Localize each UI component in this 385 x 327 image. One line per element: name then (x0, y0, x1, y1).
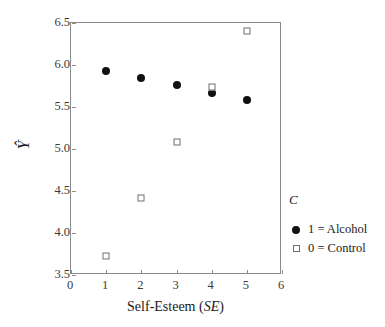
x-tick (141, 270, 142, 274)
data-point (243, 96, 251, 104)
y-tick (72, 23, 76, 24)
x-tick-label: 5 (243, 278, 249, 293)
x-axis-label-tail: ) (219, 299, 224, 314)
legend-title: C (288, 192, 383, 208)
data-point (137, 74, 145, 82)
legend-item-control[interactable]: 0 = Control (288, 239, 383, 258)
x-axis-label-text: Self-Esteem ( (127, 299, 204, 314)
x-axis-label-variable: SE (204, 299, 220, 314)
x-tick (247, 270, 248, 274)
data-point (103, 252, 110, 259)
legend-item-label: 1 = Alcohol (304, 222, 367, 237)
x-tick-label: 4 (208, 278, 214, 293)
x-tick (282, 270, 283, 274)
plot-area (70, 22, 281, 274)
data-point (243, 28, 250, 35)
open-square-icon (288, 245, 304, 252)
legend-item-label: 0 = Control (304, 241, 366, 256)
data-point (173, 81, 181, 89)
x-tick (106, 270, 107, 274)
x-tick (177, 270, 178, 274)
y-tick (72, 149, 76, 150)
x-tick-label: 1 (102, 278, 108, 293)
y-tick-label: 5.5 (54, 99, 70, 114)
y-tick-label: 4.5 (54, 183, 70, 198)
x-tick (71, 270, 72, 274)
legend: C 1 = Alcohol 0 = Control (288, 192, 383, 258)
y-tick-label: 4.0 (54, 225, 70, 240)
y-axis-label: Ŷ (15, 115, 33, 175)
y-tick (72, 107, 76, 108)
legend-item-alcohol[interactable]: 1 = Alcohol (288, 220, 383, 239)
data-point (102, 67, 110, 75)
y-tick (72, 233, 76, 234)
x-tick-label: 6 (278, 278, 284, 293)
data-point (208, 83, 215, 90)
x-tick (212, 270, 213, 274)
y-tick (72, 191, 76, 192)
data-point (173, 139, 180, 146)
y-tick (72, 65, 76, 66)
x-tick-label: 2 (137, 278, 143, 293)
y-tick (72, 275, 76, 276)
x-tick-label: 3 (172, 278, 178, 293)
filled-circle-icon (288, 226, 304, 234)
x-axis-label: Self-Esteem (SE) (0, 299, 351, 315)
scatter-plot-figure: Ŷ 3.54.04.55.05.56.06.5 0123456 Self-Es… (0, 0, 385, 327)
y-tick-label: 6.5 (54, 15, 70, 30)
y-tick-label: 6.0 (54, 57, 70, 72)
data-point (138, 194, 145, 201)
x-tick-label: 0 (67, 278, 73, 293)
y-tick-label: 5.0 (54, 141, 70, 156)
